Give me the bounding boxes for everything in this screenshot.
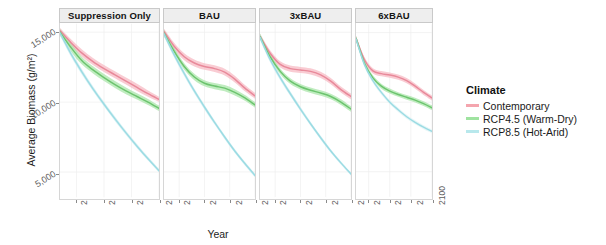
legend-entry[interactable]: RCP4.5 (Warm-Dry) <box>466 112 577 125</box>
x-tick-mark <box>411 200 412 203</box>
facet-strip-6xbau: 6xBAU <box>355 8 433 23</box>
legend: Climate ContemporaryRCP4.5 (Warm-Dry)RCP… <box>466 84 577 138</box>
facet-strip-label: BAU <box>199 10 220 21</box>
facet-strip-label: 6xBAU <box>378 10 410 21</box>
legend-color-swatch <box>466 112 479 125</box>
x-tick-mark <box>390 200 391 203</box>
facet-strip-suppression-only: Suppression Only <box>59 8 160 23</box>
x-tick-mark <box>160 200 161 203</box>
facet-panel-6xbau <box>355 23 433 200</box>
x-tick-mark <box>256 200 257 203</box>
legend-entry[interactable]: Contemporary <box>466 99 577 112</box>
facet-strip-label: Suppression Only <box>68 10 151 21</box>
facet-panel-suppression-only <box>59 23 160 200</box>
legend-entry[interactable]: RCP8.5 (Hot-Arid) <box>466 125 577 138</box>
legend-entry-label: RCP8.5 (Hot-Arid) <box>483 126 568 138</box>
legend-entries: ContemporaryRCP4.5 (Warm-Dry)RCP8.5 (Hot… <box>466 99 577 138</box>
legend-color-swatch <box>466 125 479 138</box>
x-tick-mark <box>433 200 434 203</box>
facet-strip-label: 3xBAU <box>290 10 322 21</box>
facet-strip-3xbau: 3xBAU <box>259 8 352 23</box>
x-tick-mark <box>104 200 105 203</box>
facet-panel-bau <box>163 23 256 200</box>
x-tick-mark <box>368 200 369 203</box>
chart-figure: Average Biomass (g/m²) Year 15,00010,000… <box>0 0 606 245</box>
x-axis-title: Year <box>0 228 436 240</box>
x-tick-mark <box>352 200 353 203</box>
legend-color-swatch <box>466 99 479 112</box>
legend-entry-label: Contemporary <box>483 100 550 112</box>
x-tick-mark <box>300 200 301 203</box>
x-tick-label: 2100 <box>437 186 447 205</box>
x-tick-mark <box>76 200 77 203</box>
facet-panel-3xbau <box>259 23 352 200</box>
x-tick-mark <box>204 200 205 203</box>
x-tick-mark <box>132 200 133 203</box>
x-tick-mark <box>326 200 327 203</box>
facet-strip-bau: BAU <box>163 8 256 23</box>
x-tick-mark <box>275 200 276 203</box>
x-tick-mark <box>230 200 231 203</box>
x-tick-mark <box>179 200 180 203</box>
legend-entry-label: RCP4.5 (Warm-Dry) <box>483 113 577 125</box>
legend-title: Climate <box>466 84 577 96</box>
